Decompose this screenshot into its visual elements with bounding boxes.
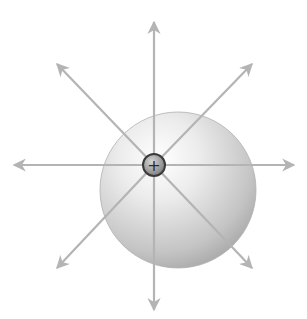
plus-sign-icon: +: [147, 156, 160, 175]
diagram-canvas: +: [0, 0, 307, 319]
field-diagram: +: [0, 0, 307, 319]
positive-charge: +: [143, 154, 165, 176]
field-line-up-left-arrow-icon: [57, 64, 154, 165]
